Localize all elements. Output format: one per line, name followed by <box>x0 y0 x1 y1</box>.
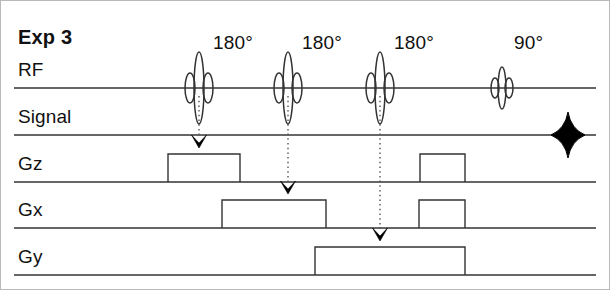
pulse-180-3-angle-label: 180° <box>394 32 434 54</box>
echo-signal-group <box>551 112 585 158</box>
row-label-gz: Gz <box>18 153 42 175</box>
page-title: Exp 3 <box>18 26 72 49</box>
pulse-sequence-figure: Exp 3 RFSignalGzGxGy 180°180°180°90° <box>0 0 610 290</box>
gx-pulse-1 <box>222 200 326 228</box>
timeline-baselines <box>14 88 596 275</box>
pulse-90-angle-label: 90° <box>514 32 543 54</box>
gz-pulse-1 <box>168 154 240 182</box>
row-label-signal: Signal <box>18 106 71 128</box>
connector-rf1-to-gz-arrowhead <box>192 135 207 148</box>
gz-pulse-2 <box>420 154 465 182</box>
row-label-gy: Gy <box>18 246 42 268</box>
pulse-180-1-angle-label: 180° <box>213 32 253 54</box>
row-label-rf: RF <box>18 59 44 81</box>
connector-rf3-to-gy-arrowhead <box>373 228 388 241</box>
gradient-pulse-group <box>168 154 465 275</box>
echo-diamond <box>551 112 585 158</box>
pulse-180-2-angle-label: 180° <box>302 32 342 54</box>
connector-arrow-group <box>192 96 388 241</box>
gy-pulse-1 <box>315 247 465 275</box>
connector-rf2-to-gx-arrowhead <box>281 181 296 194</box>
row-label-gx: Gx <box>18 199 42 221</box>
gx-pulse-2 <box>419 200 465 228</box>
